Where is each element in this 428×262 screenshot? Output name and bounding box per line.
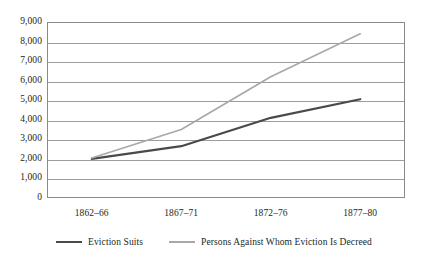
legend-entry[interactable]: Eviction Suits [56, 237, 143, 247]
series-line [92, 99, 361, 159]
y-axis-tick-label: 8,000 [0, 37, 42, 47]
y-axis-tick-label: 5,000 [0, 95, 42, 105]
x-axis-tick-label: 1877–80 [315, 208, 405, 218]
x-axis-tick-label: 1872–76 [226, 208, 316, 218]
x-axis-tick-label: 1862–66 [47, 208, 137, 218]
x-axis-tick-label: 1867–71 [136, 208, 226, 218]
y-axis-tick-label: 2,000 [0, 154, 42, 164]
line-chart-figure: 01,0002,0003,0004,0005,0006,0007,0008,00… [0, 0, 428, 262]
y-axis-tick-label: 7,000 [0, 56, 42, 66]
legend-label: Persons Against Whom Eviction Is Decreed [201, 237, 372, 247]
legend-swatch-icon [56, 241, 82, 244]
y-axis-tick-label: 0 [0, 193, 42, 203]
legend-swatch-icon [169, 241, 195, 243]
y-axis-tick-label: 3,000 [0, 134, 42, 144]
y-axis-tick-label: 9,000 [0, 17, 42, 27]
y-axis-tick-label: 6,000 [0, 76, 42, 86]
series-layer [47, 22, 405, 198]
y-axis-tick-label: 1,000 [0, 173, 42, 183]
legend-entry[interactable]: Persons Against Whom Eviction Is Decreed [169, 237, 372, 247]
series-line [92, 34, 361, 158]
y-axis-tick-label: 4,000 [0, 115, 42, 125]
chart-legend: Eviction SuitsPersons Against Whom Evict… [0, 237, 428, 247]
legend-label: Eviction Suits [88, 237, 143, 247]
